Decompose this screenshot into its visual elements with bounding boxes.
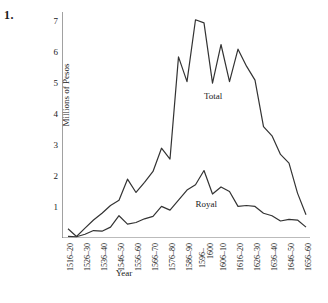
series-annotation-royal: Royal bbox=[196, 199, 218, 209]
chart-axes bbox=[62, 12, 310, 238]
chart-plot-area: Millions of Pesos 1234567 1516–201526–30… bbox=[62, 12, 310, 238]
y-tick-label: 6 bbox=[54, 48, 59, 57]
x-tick-label: 1656–60 bbox=[305, 243, 313, 271]
x-tick-label: 1646–50 bbox=[288, 243, 296, 271]
figure-number: 1. bbox=[4, 8, 14, 23]
x-axis-title: Year bbox=[0, 268, 248, 278]
figure-root: 1. Millions of Pesos 1234567 1516–201526… bbox=[0, 0, 328, 303]
x-tick-label: 1576–80 bbox=[169, 243, 177, 271]
x-tick-label: 1516–20 bbox=[67, 243, 75, 271]
x-tick-label: 1586–90 bbox=[186, 243, 194, 271]
x-tick-label: 1556–60 bbox=[135, 243, 143, 271]
x-tick-label: 1566–70 bbox=[152, 243, 160, 271]
y-tick-label: 2 bbox=[54, 172, 59, 181]
x-tick-label: 1626–30 bbox=[254, 243, 262, 271]
y-tick-label: 7 bbox=[54, 17, 59, 26]
y-tick-label: 1 bbox=[54, 203, 59, 212]
series-line-total bbox=[68, 20, 306, 237]
x-tick-label: 1536–40 bbox=[101, 243, 109, 271]
chart-svg bbox=[62, 12, 310, 238]
x-tick-label: 1596–1600 bbox=[199, 243, 215, 268]
series-annotation-total: Total bbox=[204, 91, 222, 101]
y-tick-label: 5 bbox=[54, 79, 59, 88]
y-tick-label: 4 bbox=[54, 110, 59, 119]
x-tick-label: 1606–10 bbox=[220, 243, 228, 271]
y-tick-label: 3 bbox=[54, 141, 59, 150]
x-tick-label: 1636–40 bbox=[271, 243, 279, 271]
x-tick-label: 1546–50 bbox=[118, 243, 126, 271]
chart-series-lines bbox=[68, 20, 306, 237]
x-tick-label: 1526–30 bbox=[84, 243, 92, 271]
x-tick-label: 1616–20 bbox=[237, 243, 245, 271]
x-tick-label-continuation: 1600 bbox=[207, 243, 215, 259]
series-line-royal bbox=[68, 171, 306, 237]
